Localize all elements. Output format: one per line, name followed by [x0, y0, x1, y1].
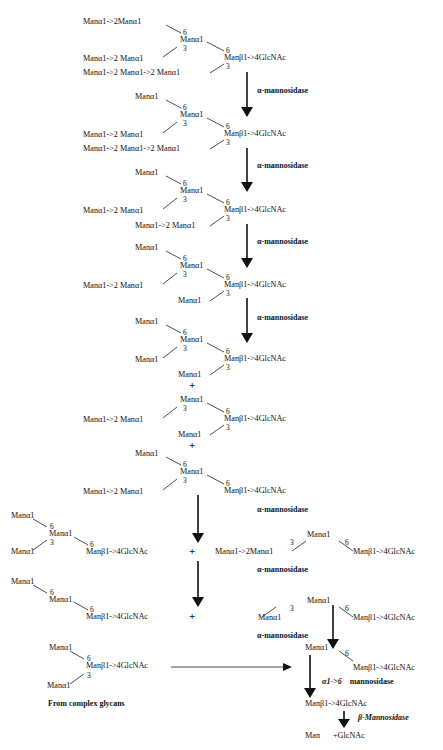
core-label: Manβ1->4GlcNAc [224, 415, 286, 423]
enzyme-prefix: α1->6 [322, 677, 342, 686]
residue-label: Manα1 [135, 244, 158, 252]
linkage-3: 3 [226, 63, 230, 71]
residue-label: Manα1 [180, 468, 203, 476]
core-label: Manβ1->4GlcNAc [353, 548, 415, 556]
residue-label: Manα1 [47, 682, 70, 690]
linkage-3: 3 [290, 605, 294, 613]
linkage-3: 3 [183, 45, 187, 53]
residue-label: Manα1 [180, 36, 203, 44]
residue-label: Manα1->2 Manα1 [83, 55, 143, 63]
connector-lines [0, 0, 443, 750]
linkage-6: 6 [345, 539, 349, 547]
linkage-3: 3 [226, 290, 230, 298]
residue-label: Manα1->2 Manα1 [83, 488, 143, 496]
residue-label: Manα1->2 Manα1 [135, 222, 195, 230]
plus-sign: + [189, 611, 195, 622]
residue-label: Manα1 [49, 596, 72, 604]
residue-label: Manα1 [49, 644, 72, 652]
residue-label: Manα1 [305, 644, 328, 652]
core-label: Manβ1->4GlcNAc [86, 662, 148, 670]
linkage-3: 3 [290, 539, 294, 547]
core-label: Manβ1->4GlcNAc [353, 664, 415, 672]
residue-label: Manα1->2Manα1 [83, 18, 141, 26]
linkage-3: 3 [183, 120, 187, 128]
residue-label: Manα1 [180, 262, 203, 270]
linkage-3: 3 [183, 196, 187, 204]
enzyme-label-alpha-mannosidase: α-mannosidase [257, 632, 308, 640]
core-label: Manβ1->4GlcNAc [305, 700, 367, 708]
core-label: Manβ1->4GlcNAc [224, 54, 286, 62]
enzyme-label-alpha16-mannosidase: α1->6 mannosidase [322, 678, 394, 686]
residue-label: Manα1 [178, 431, 201, 439]
residue-label: Manα1 [180, 336, 203, 344]
residue-label: Manα1 [49, 530, 72, 538]
residue-label: Manα1->2 Manα1 [83, 131, 143, 139]
linkage-3: 3 [183, 477, 187, 485]
enzyme-label-alpha-mannosidase: α-mannosidase [257, 506, 308, 514]
linkage-3: 3 [87, 672, 91, 680]
linkage-3: 3 [183, 271, 187, 279]
core-label: Manβ1->4GlcNAc [86, 613, 148, 621]
enzyme-label-alpha-mannosidase: α-mannosidase [257, 238, 308, 246]
linkage-3: 3 [226, 139, 230, 147]
enzyme-label-alpha-mannosidase: α-mannosidase [257, 162, 308, 170]
residue-label: Manα1 [178, 371, 201, 379]
linkage-3: 3 [50, 539, 54, 547]
plus-sign: + [189, 380, 195, 391]
residue-label: Manα1->2Manα1 [215, 548, 273, 556]
residue-label: Manα1 [180, 111, 203, 119]
product-glcnac: +GlcNAc [333, 732, 365, 740]
residue-label: Manα1->2 Manα1 [83, 416, 143, 424]
enzyme-label-beta-mannosidase: β-Mannosidase [358, 714, 409, 722]
core-label: Manβ1->4GlcNAc [224, 206, 286, 214]
residue-label: Manα1 [135, 93, 158, 101]
linkage-3: 3 [226, 424, 230, 432]
residue-label: Manα1 [178, 297, 201, 305]
core-label: Manβ1->4GlcNAc [353, 614, 415, 622]
core-label: Manβ1->4GlcNAc [224, 355, 286, 363]
core-label: Manβ1->4GlcNAc [86, 548, 148, 556]
residue-label: Manα1 [180, 396, 203, 404]
core-label: Manβ1->4GlcNAc [224, 130, 286, 138]
residue-label: Manα1 [307, 597, 330, 605]
residue-label: Manα1->2 Manα1->2 Manα1 [83, 69, 180, 77]
linkage-3: 3 [226, 215, 230, 223]
linkage-3: 3 [183, 345, 187, 353]
residue-label: Manα1 [11, 548, 34, 556]
enzyme-suffix: mannosidase [350, 677, 394, 686]
linkage-6: 6 [345, 650, 349, 658]
linkage-3: 3 [226, 364, 230, 372]
enzyme-label-alpha-mannosidase: α-mannosidase [257, 87, 308, 95]
enzyme-label-alpha-mannosidase: α-mannosidase [257, 566, 308, 574]
enzyme-label-alpha-mannosidase: α-mannosidase [257, 314, 308, 322]
core-label: Manβ1->4GlcNAc [224, 281, 286, 289]
residue-label: Manα1 [11, 578, 34, 586]
residue-label: Manα1 [180, 187, 203, 195]
residue-label: Manα1 [135, 450, 158, 458]
source-label: From complex glycans [48, 699, 125, 708]
product-man: Man [305, 732, 320, 740]
plus-sign: + [189, 440, 195, 451]
linkage-6: 6 [345, 605, 349, 613]
linkage-3: 3 [183, 405, 187, 413]
residue-label: Manα1 [11, 512, 34, 520]
residue-label: Manα1->2 Manα1 [83, 207, 143, 215]
plus-sign: + [189, 546, 195, 557]
residue-label: Manα1->2 Manα1 [83, 282, 143, 290]
core-label: Manβ1->4GlcNAc [224, 487, 286, 495]
residue-label: Manα1 [135, 318, 158, 326]
residue-label: Manα1 [258, 614, 281, 622]
residue-label: Manα1 [135, 169, 158, 177]
residue-label: Manα1->2 Manα1->2 Manα1 [83, 145, 180, 153]
residue-label: Manα1 [135, 356, 158, 364]
residue-label: Manα1 [307, 531, 330, 539]
